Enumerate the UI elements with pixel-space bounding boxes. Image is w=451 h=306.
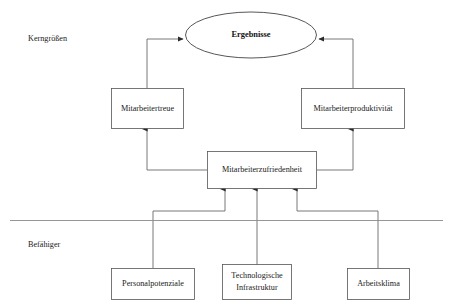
edge-mitarbeitertreue-to-ergebnisse [147,39,183,88]
mitarbeiterzufriedenheit-label: Mitarbeiterzufriedenheit [222,165,303,174]
node-mitarbeiterzufriedenheit[interactable]: Mitarbeiterzufriedenheit [208,152,317,189]
edge-personalpotenziale-to-mitarbeiterzufriedenheit [153,189,225,268]
edge-mitarbeiterproduktivitaet-to-ergebnisse [319,39,353,88]
diagram-canvas: Ergebnisse Mitarbeitertreue Mitarbeiterp… [0,0,451,306]
technologische-infrastruktur-label-line1: Technologische [231,271,283,280]
ergebnisse-label: Ergebnisse [231,30,270,39]
arbeitsklima-label: Arbeitsklima [357,279,400,288]
node-ergebnisse[interactable]: Ergebnisse [186,12,317,58]
band-label-befaehiger: Befähiger [28,240,61,249]
diagram-root: Ergebnisse Mitarbeitertreue Mitarbeiterp… [0,0,451,306]
mitarbeitertreue-label: Mitarbeitertreue [121,104,175,113]
technologische-infrastruktur-label-line2: Infrastruktur [236,283,278,292]
node-mitarbeitertreue[interactable]: Mitarbeitertreue [112,89,184,129]
mitarbeiterproduktivitaet-label: Mitarbeiterproduktivität [313,104,393,113]
edge-mitarbeiterzufriedenheit-to-mitarbeitertreue [147,129,207,170]
band-label-kerngroessen: Kerngrößen [28,34,67,43]
edge-mitarbeiterzufriedenheit-to-mitarbeiterproduktivitaet [317,129,353,170]
node-personalpotenziale[interactable]: Personalpotenziale [112,269,195,300]
node-arbeitsklima[interactable]: Arbeitsklima [348,269,410,300]
personalpotenziale-label: Personalpotenziale [122,279,184,288]
edge-arbeitsklima-to-mitarbeiterzufriedenheit [297,189,378,268]
node-mitarbeiterproduktivitaet[interactable]: Mitarbeiterproduktivität [302,89,405,129]
node-technologische-infrastruktur[interactable]: Technologische Infrastruktur [223,265,292,300]
